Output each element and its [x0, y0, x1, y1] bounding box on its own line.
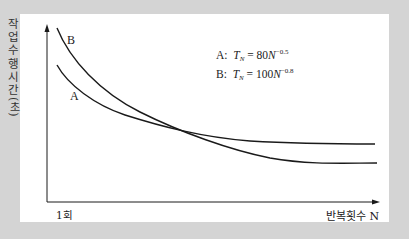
curve-b-label: B: [67, 33, 75, 48]
legend-equation-a: A: TN = 80N−0.5: [216, 48, 288, 63]
legend-sub: N: [239, 74, 244, 82]
legend-a-prefix: A:: [216, 49, 228, 61]
legend-n: N: [268, 49, 276, 61]
y-label-char: (초): [6, 97, 19, 117]
legend-n: N: [273, 68, 281, 80]
legend-sub: N: [240, 55, 245, 63]
legend-a-exp: −0.5: [276, 48, 289, 56]
y-label-char: 행: [6, 58, 20, 71]
y-label-char: 간: [6, 84, 20, 97]
x-tick-label: 1회: [56, 207, 73, 222]
curve-a-label: A: [70, 89, 79, 104]
x-axis-arrow-icon: [372, 200, 380, 205]
legend-b-prefix: B:: [216, 68, 227, 80]
chart-plot: [0, 0, 409, 239]
y-axis-label: 작 업 수 행 시 간 (초): [6, 18, 20, 120]
legend-a-coef: 80: [257, 49, 269, 61]
legend-equation-b: B: TN = 100N−0.8: [216, 67, 294, 82]
legend-b-coef: 100: [256, 68, 273, 80]
x-axis-label: 반복횟수 N: [326, 207, 379, 223]
legend-b-exp: −0.8: [281, 67, 294, 75]
y-axis-arrow-icon: [45, 24, 50, 32]
legend-eq: =: [247, 49, 254, 61]
y-label-char: 수: [6, 44, 20, 57]
legend-eq: =: [247, 68, 254, 80]
